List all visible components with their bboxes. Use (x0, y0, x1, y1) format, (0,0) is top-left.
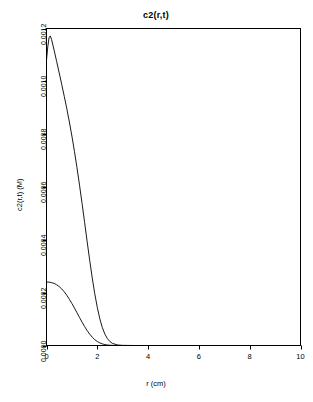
data-series-group (47, 36, 301, 346)
y-tick-label: 0.0000 (40, 340, 47, 361)
x-tick-label: 4 (133, 352, 163, 361)
y-tick-label: 0.0008 (40, 129, 47, 150)
y-tick-label: 0.0010 (40, 76, 47, 97)
y-tick-label: 0.0002 (40, 287, 47, 308)
x-tick-label: 10 (286, 352, 313, 361)
x-axis-title: r (cm) (0, 379, 312, 388)
series-line (47, 36, 301, 346)
series-line (47, 282, 301, 345)
y-axis-title: c2(r,t) (M) (15, 179, 24, 212)
x-tick-label: 6 (184, 352, 214, 361)
x-tick-label: 8 (235, 352, 265, 361)
chart-figure: c2(r,t) 0246810 0.00000.00020.00040.0006… (0, 0, 312, 402)
plot-frame (47, 29, 301, 346)
x-axis-ticks (48, 346, 302, 350)
x-tick-label: 2 (82, 352, 112, 361)
y-tick-label: 0.0006 (40, 182, 47, 203)
y-tick-label: 0.0012 (40, 23, 47, 44)
y-tick-label: 0.0004 (40, 234, 47, 255)
